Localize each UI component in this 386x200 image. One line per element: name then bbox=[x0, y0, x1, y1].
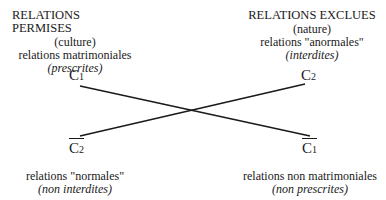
node-c2bar-index: 2 bbox=[79, 144, 84, 155]
node-c2-letter: C bbox=[301, 67, 311, 83]
relations-permises-block: RELATIONS PERMISES (culture) relations m… bbox=[10, 9, 140, 75]
node-c1: C1 bbox=[69, 68, 84, 84]
node-c2: C2 bbox=[301, 68, 316, 84]
relations-normales-block: relations "normales" (non interdites) bbox=[20, 170, 130, 196]
node-c2-bar: C2 bbox=[69, 141, 84, 157]
interdites-label: (interdites) bbox=[247, 49, 377, 62]
node-c1bar-index: 1 bbox=[312, 144, 317, 155]
relations-exclues-title: RELATIONS EXCLUES bbox=[247, 9, 377, 22]
non-interdites-label: (non interdites) bbox=[20, 183, 130, 196]
overbar-c1: C1 bbox=[302, 141, 317, 157]
node-c2bar-letter: C bbox=[69, 140, 79, 156]
node-c1-index: 1 bbox=[79, 71, 84, 82]
overbar-c2: C2 bbox=[69, 141, 84, 157]
node-c1-bar: C1 bbox=[302, 141, 317, 157]
relations-exclues-block: RELATIONS EXCLUES (nature) relations "an… bbox=[247, 9, 377, 62]
node-c1-letter: C bbox=[69, 67, 79, 83]
node-c2-index: 2 bbox=[311, 71, 316, 82]
relations-permises-title: RELATIONS PERMISES bbox=[12, 9, 140, 35]
node-c1bar-letter: C bbox=[302, 140, 312, 156]
non-prescrites-label: (non prescrites) bbox=[240, 183, 380, 196]
relations-non-matrimoniales-block: relations non matrimoniales (non prescri… bbox=[240, 170, 380, 196]
